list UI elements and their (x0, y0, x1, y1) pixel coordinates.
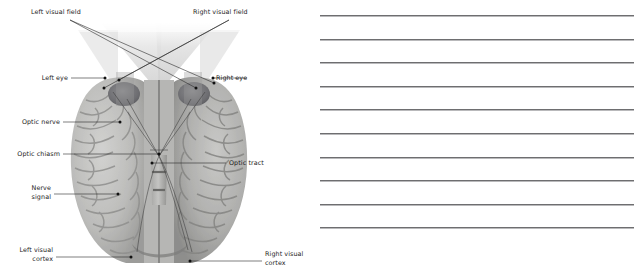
note-rule-line (320, 157, 634, 158)
right-field-column (184, 72, 202, 106)
ruled-notes-area[interactable] (318, 0, 636, 271)
label-right-eye: Right eye (216, 74, 247, 82)
dot-optic-chiasm (158, 153, 161, 156)
label-left-visual-field: Left visual field (31, 8, 81, 16)
diagram-svg: Left visual field Right visual field Lef… (0, 0, 318, 271)
dot-left-field-a (195, 87, 198, 90)
dot-optic-nerve (119, 121, 122, 124)
note-rule-line (320, 109, 634, 110)
label-nerve-signal-line1: Nerve (32, 184, 51, 192)
note-rule-line (320, 180, 634, 181)
dot-right-field-b (118, 79, 121, 82)
page-root: Left visual field Right visual field Lef… (0, 0, 636, 271)
field-top-fade (78, 18, 240, 32)
label-optic-nerve: Optic nerve (22, 118, 60, 126)
left-field-column (116, 72, 134, 106)
label-left-eye: Left eye (42, 74, 68, 82)
dot-right-field-a (103, 87, 106, 90)
dot-left-visual-cortex (130, 256, 133, 259)
label-right-visual-cortex-line1: Right visual (265, 250, 304, 258)
label-right-visual-cortex-line2: cortex (265, 259, 286, 267)
note-rule-line (320, 86, 634, 87)
label-left-visual-cortex-line2: cortex (32, 255, 53, 263)
visual-pathway-diagram: Left visual field Right visual field Lef… (0, 0, 318, 271)
label-right-visual-field: Right visual field (193, 8, 248, 16)
note-rule-line (320, 133, 634, 134)
note-rule-line (320, 39, 634, 40)
dot-nerve-signal (117, 193, 120, 196)
note-rule-line (320, 15, 634, 16)
label-optic-chiasm: Optic chiasm (17, 150, 60, 158)
dot-optic-tract (151, 162, 154, 165)
dot-right-eye (212, 77, 215, 80)
label-nerve-signal-line2: signal (32, 193, 52, 201)
dot-left-eye (104, 77, 107, 80)
note-rule-line (320, 62, 634, 63)
brain-illustration (71, 72, 247, 263)
dot-right-visual-cortex (189, 260, 192, 263)
label-left-visual-cortex-line1: Left visual (19, 246, 53, 254)
note-rule-line (320, 204, 634, 205)
label-optic-tract: Optic tract (229, 159, 264, 167)
note-rule-line (320, 227, 634, 228)
